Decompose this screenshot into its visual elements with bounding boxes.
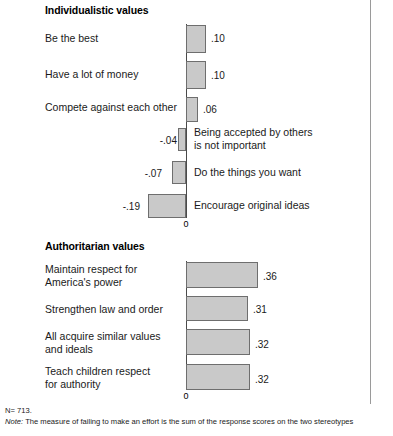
row-label: Being accepted by others is not importan… <box>194 126 366 151</box>
note-body: The measure of failing to make an effort… <box>23 417 353 426</box>
bar <box>186 61 206 89</box>
bar <box>186 262 258 288</box>
bar-value-label: -.04 <box>125 135 177 146</box>
figure-right-border <box>370 0 371 404</box>
row-label: All acquire similar values and ideals <box>45 330 185 355</box>
bar <box>172 161 186 184</box>
row-label: Encourage original ideas <box>194 199 366 212</box>
figure-container: Individualistic values 0 Be the best .10… <box>0 0 393 436</box>
sample-size-note: N= 713. <box>5 406 373 416</box>
bar <box>186 25 206 53</box>
section-title-individualistic: Individualistic values <box>45 4 148 16</box>
bar-value-label: .10 <box>211 33 225 44</box>
bar <box>186 329 250 355</box>
bar-value-label: .36 <box>263 271 277 282</box>
row-label: Teach children respect for authority <box>45 365 185 390</box>
bar <box>186 296 248 321</box>
row-label: Have a lot of money <box>45 68 180 81</box>
bar <box>178 128 186 151</box>
bar-value-label: .06 <box>203 104 217 115</box>
row-label: Strengthen law and order <box>45 303 185 316</box>
note-text: Note: The measure of failing to make an … <box>5 417 373 427</box>
bar-value-label: .10 <box>211 70 225 81</box>
bar-value-label: .31 <box>253 304 267 315</box>
bar <box>186 364 250 390</box>
row-label: Compete against each other <box>45 101 185 114</box>
bar-value-label: -.07 <box>110 168 162 179</box>
bar <box>186 97 198 122</box>
zero-axis-label-individualistic: 0 <box>181 219 191 229</box>
bar-value-label: .32 <box>255 339 269 350</box>
bar-value-label: .32 <box>255 374 269 385</box>
row-label: Be the best <box>45 32 180 45</box>
row-label: Maintain respect for America's power <box>45 263 185 288</box>
row-label: Do the things you want <box>194 166 366 179</box>
bar <box>148 194 186 218</box>
section-title-authoritarian: Authoritarian values <box>45 240 145 252</box>
footnotes: N= 713. Note: The measure of failing to … <box>5 406 373 428</box>
zero-axis-label-authoritarian: 0 <box>181 391 191 401</box>
bar-value-label: -.19 <box>88 201 140 212</box>
note-label: Note: <box>5 417 23 426</box>
